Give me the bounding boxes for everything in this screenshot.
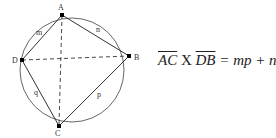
label-p: p bbox=[97, 90, 101, 99]
point-d bbox=[20, 58, 24, 62]
label-c: C bbox=[55, 129, 60, 138]
cyclic-quadrilateral-diagram: A B C D m n p q bbox=[0, 0, 276, 138]
formula-rhs: = mp + nq bbox=[216, 52, 276, 68]
segment-ac: AC bbox=[158, 52, 177, 68]
side-da bbox=[22, 15, 62, 60]
label-m: m bbox=[36, 28, 43, 37]
segment-db: DB bbox=[196, 52, 216, 68]
point-b bbox=[127, 54, 131, 58]
side-bc bbox=[59, 56, 129, 126]
side-cd bbox=[22, 60, 59, 126]
label-b: B bbox=[134, 53, 139, 62]
label-a: A bbox=[58, 3, 64, 12]
label-n: n bbox=[96, 25, 100, 34]
side-ab bbox=[62, 15, 129, 56]
point-c bbox=[57, 124, 61, 128]
ptolemy-formula: AC X DB = mp + nq bbox=[158, 52, 276, 69]
diagonal-ac bbox=[59, 15, 62, 126]
point-a bbox=[60, 13, 64, 17]
diagonal-db bbox=[22, 56, 129, 60]
times-sign: X bbox=[177, 52, 195, 68]
label-d: D bbox=[12, 56, 18, 65]
label-q: q bbox=[34, 88, 38, 97]
